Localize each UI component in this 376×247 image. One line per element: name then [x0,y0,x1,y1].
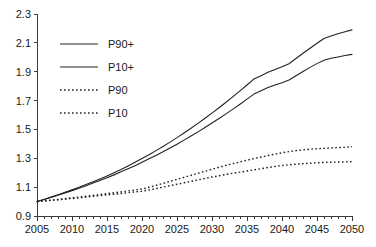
x-tick-label: 2010 [60,223,84,235]
x-tick-label: 2025 [165,223,189,235]
series-lines [37,30,352,202]
x-tick-label: 2045 [305,223,329,235]
x-tick-label: 2030 [200,223,224,235]
legend-label-p90-plus: P90+ [108,38,134,50]
series-line-p90-plus [37,30,352,202]
x-tick-label: 2035 [235,223,259,235]
series-line-p90 [37,147,352,202]
x-axis: 2005201020152020202520302035204020452050 [25,216,364,235]
y-tick-label: 1.5 [16,123,31,135]
chart-canvas: 0.91.11.31.51.71.92.12.3 200520102015202… [0,0,376,247]
legend-label-p10: P10 [108,107,128,119]
x-tick-label: 2015 [95,223,119,235]
y-axis: 0.91.11.31.51.71.92.12.3 [16,8,37,222]
y-tick-label: 2.3 [16,8,31,20]
y-tick-label: 1.7 [16,95,31,107]
series-line-p10-plus [37,54,352,201]
y-tick-label: 1.1 [16,181,31,193]
y-tick-label: 2.1 [16,37,31,49]
series-line-p10 [37,162,352,202]
x-tick-label: 2040 [270,223,294,235]
x-tick-label: 2050 [340,223,364,235]
line-chart-figure: 0.91.11.31.51.71.92.12.3 200520102015202… [0,0,376,247]
y-tick-label: 0.9 [16,210,31,222]
chart-legend: P90+P10+P90P10 [60,38,134,119]
legend-label-p90: P90 [108,84,128,96]
x-tick-label: 2020 [130,223,154,235]
x-tick-label: 2005 [25,223,49,235]
legend-label-p10-plus: P10+ [108,61,134,73]
y-tick-label: 1.3 [16,152,31,164]
y-tick-label: 1.9 [16,66,31,78]
